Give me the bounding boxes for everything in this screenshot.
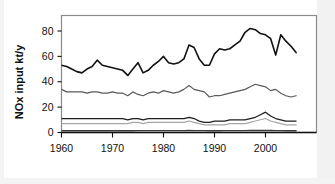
y-tick-label: 20: [42, 101, 54, 113]
data-series-group: [62, 28, 297, 130]
y-tick-label: 40: [42, 75, 54, 87]
plot-frame: [62, 16, 317, 133]
x-axis-ticks: 19601970198019902000: [50, 133, 278, 154]
series-line-series-2: [62, 84, 297, 97]
x-tick-label: 1980: [152, 142, 176, 154]
y-tick-label: 80: [42, 25, 54, 37]
series-line-series-4: [62, 119, 297, 125]
x-tick-label: 1970: [101, 142, 125, 154]
y-tick-label: 0: [48, 126, 54, 138]
x-tick-label: 1990: [203, 142, 227, 154]
x-tick-label: 2000: [254, 142, 278, 154]
series-line-series-3: [62, 112, 297, 122]
chart-figure: NOx input kt/y 020406080 196019701980199…: [0, 0, 335, 184]
x-tick-label: 1960: [50, 142, 74, 154]
line-chart-svg: 020406080 19601970198019902000: [0, 0, 335, 184]
series-line-total: [62, 28, 297, 75]
y-tick-label: 60: [42, 50, 54, 62]
y-axis-ticks: 020406080: [42, 25, 62, 139]
